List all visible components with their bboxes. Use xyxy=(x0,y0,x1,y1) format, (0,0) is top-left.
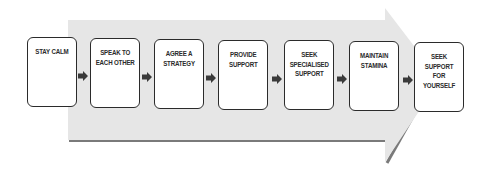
step-stay-calm: STAY CALM xyxy=(27,37,77,107)
step-maintain-stamina: MAINTAIN STAMINA xyxy=(349,41,399,111)
step-label: SEEK SUPPORT FOR YOURSELF xyxy=(418,52,460,111)
step-label: PROVIDE SUPPORT xyxy=(229,50,258,109)
arrow-right-icon xyxy=(272,74,282,84)
arrow-right-icon xyxy=(142,72,152,82)
step-seek-specialised-support: SEEK SPECIALISED SUPPORT xyxy=(284,40,334,110)
step-agree-a-strategy: AGREE A STRATEGY xyxy=(154,39,204,109)
arrow-right-icon xyxy=(206,73,216,83)
step-label: SPEAK TO EACH OTHER xyxy=(96,48,135,107)
step-provide-support: PROVIDE SUPPORT xyxy=(218,40,268,110)
step-label: STAY CALM xyxy=(35,47,68,106)
step-label: AGREE A STRATEGY xyxy=(163,49,195,108)
arrow-right-icon xyxy=(337,74,347,84)
arrow-right-icon xyxy=(403,75,413,85)
step-seek-support-for-yourself: SEEK SUPPORT FOR YOURSELF xyxy=(414,42,464,112)
arrow-right-icon xyxy=(78,71,88,81)
step-label: SEEK SPECIALISED SUPPORT xyxy=(289,50,328,109)
step-label: MAINTAIN STAMINA xyxy=(360,51,388,110)
step-speak-to-each-other: SPEAK TO EACH OTHER xyxy=(90,38,140,108)
